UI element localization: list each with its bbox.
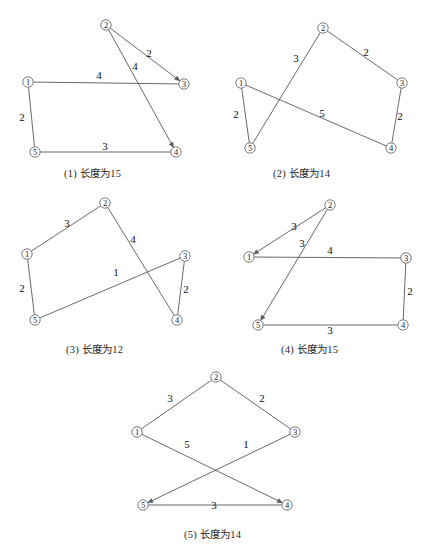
graph-edge bbox=[253, 32, 321, 143]
graph-edge bbox=[28, 259, 35, 315]
edge-weight-label: 3 bbox=[291, 220, 297, 232]
graph-vertex-label: 1 bbox=[247, 252, 251, 262]
graph-vertex-label: 2 bbox=[104, 20, 108, 30]
graph-vertex-label: 1 bbox=[26, 77, 30, 87]
panel-4-caption: (4) 长度为15 bbox=[281, 341, 338, 356]
graph-vertex-label: 5 bbox=[256, 320, 260, 330]
edge-weight-label: 4 bbox=[130, 233, 136, 245]
edge-arrowhead-icon bbox=[148, 499, 153, 503]
edge-weight-label: 2 bbox=[183, 283, 189, 295]
graph-vertex-label: 3 bbox=[404, 253, 408, 263]
edge-weight-label: 4 bbox=[96, 69, 102, 81]
graph-figure-sheet: 4242312345322521234534212123453342312345… bbox=[0, 0, 430, 555]
edge-weight-label: 3 bbox=[299, 237, 305, 249]
panel-5: 3251312345 bbox=[132, 372, 300, 511]
graph-edge bbox=[29, 87, 35, 147]
graph-edge bbox=[142, 434, 283, 502]
graph-vertex-label: 3 bbox=[183, 251, 187, 261]
edge-weight-label: 2 bbox=[146, 47, 152, 59]
edge-weight-label: 3 bbox=[327, 324, 333, 336]
edge-weight-label: 2 bbox=[233, 108, 239, 120]
graph-vertex-label: 2 bbox=[321, 23, 325, 33]
edge-arrowhead-icon bbox=[277, 499, 282, 503]
edge-weight-label: 3 bbox=[102, 140, 108, 152]
graph-edge bbox=[254, 257, 401, 258]
edge-weight-label: 2 bbox=[397, 110, 403, 122]
graph-edge bbox=[110, 28, 180, 81]
graph-vertex-label: 3 bbox=[182, 79, 186, 89]
graph-vertex-label: 5 bbox=[248, 143, 252, 153]
edge-weight-label: 4 bbox=[327, 244, 333, 256]
edge-weight-label: 3 bbox=[167, 392, 173, 404]
graph-vertex-label: 1 bbox=[239, 78, 243, 88]
edge-arrowhead-icon bbox=[253, 250, 258, 255]
graph-edge bbox=[403, 263, 406, 320]
edge-weight-label: 3 bbox=[211, 499, 217, 511]
edge-weight-label: 2 bbox=[259, 392, 265, 404]
graph-drawing-layer: 4242312345322521234534212123453342312345… bbox=[0, 0, 430, 555]
graph-vertex-label: 1 bbox=[25, 249, 29, 259]
edge-arrowhead-icon bbox=[175, 76, 180, 81]
graph-vertex-label: 5 bbox=[141, 500, 145, 510]
graph-vertex-label: 2 bbox=[214, 372, 218, 382]
edge-weight-label: 2 bbox=[19, 111, 25, 123]
graph-edge bbox=[40, 258, 180, 318]
graph-vertex-label: 2 bbox=[103, 198, 107, 208]
graph-edge bbox=[246, 85, 386, 146]
edge-arrowhead-icon bbox=[261, 315, 265, 320]
panel-3: 3421212345 bbox=[19, 198, 190, 326]
edge-weight-label: 1 bbox=[243, 438, 249, 450]
graph-vertex-label: 3 bbox=[293, 427, 297, 437]
graph-edge bbox=[141, 380, 211, 429]
edge-weight-label: 2 bbox=[363, 46, 369, 58]
edge-weight-label: 5 bbox=[319, 107, 325, 119]
panel-4: 3342312345 bbox=[244, 200, 413, 336]
edge-weight-label: 1 bbox=[113, 266, 119, 278]
panel-2: 3225212345 bbox=[233, 23, 407, 154]
panel-1-caption: (1) 长度为15 bbox=[64, 165, 121, 180]
graph-vertex-label: 2 bbox=[328, 200, 332, 210]
graph-edge bbox=[33, 82, 179, 84]
graph-vertex-label: 3 bbox=[400, 78, 404, 88]
panel-3-caption: (3) 长度为12 bbox=[66, 341, 123, 356]
edge-weight-label: 3 bbox=[64, 217, 70, 229]
graph-edge bbox=[148, 434, 291, 502]
graph-vertex-label: 1 bbox=[135, 427, 139, 437]
edge-weight-label: 2 bbox=[407, 285, 413, 297]
panel-1: 4242312345 bbox=[19, 20, 189, 158]
graph-edge bbox=[242, 88, 250, 143]
panel-2-caption: (2) 长度为14 bbox=[273, 165, 330, 180]
graph-edge bbox=[220, 380, 290, 429]
graph-edge bbox=[108, 207, 175, 315]
edge-arrowhead-icon bbox=[169, 142, 173, 147]
edge-weight-label: 3 bbox=[293, 52, 299, 64]
graph-vertex-label: 5 bbox=[33, 147, 37, 157]
edge-weight-label: 2 bbox=[19, 282, 25, 294]
edge-weight-label: 5 bbox=[184, 438, 190, 450]
panel-5-caption: (5) 长度为14 bbox=[184, 526, 241, 541]
edge-weight-label: 4 bbox=[132, 60, 138, 72]
graph-vertex-label: 5 bbox=[33, 315, 37, 325]
graph-edge bbox=[109, 30, 174, 148]
